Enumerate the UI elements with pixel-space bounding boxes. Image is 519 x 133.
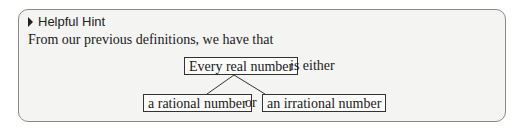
or-text: or bbox=[245, 94, 257, 112]
rational-number-box: a rational number bbox=[143, 94, 252, 112]
irrational-number-box: an irrational number bbox=[262, 94, 386, 112]
root-box: Every real number bbox=[184, 57, 298, 75]
root-suffix-text: is either bbox=[290, 57, 335, 75]
